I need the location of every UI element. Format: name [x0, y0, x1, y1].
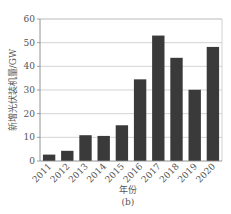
- y-tick-label: 50: [24, 38, 36, 48]
- bar-2018: [170, 58, 182, 161]
- bars: [43, 36, 219, 161]
- y-axis-title: 新增光伏装机量/GW: [7, 48, 18, 131]
- y-tick-label: 60: [24, 14, 36, 24]
- x-tick-label: 2013: [67, 161, 90, 184]
- y-tick-label: 40: [24, 61, 36, 71]
- x-tick-label: 2012: [48, 161, 71, 184]
- bar-2017: [152, 36, 164, 161]
- bar-2014: [98, 136, 110, 161]
- bar-2020: [207, 47, 219, 161]
- bar-2012: [61, 151, 73, 161]
- y-tick-label: 0: [29, 156, 35, 166]
- x-tick-label: 2016: [121, 161, 144, 184]
- x-tick-label: 2019: [176, 161, 199, 184]
- x-tick-label: 2020: [194, 161, 217, 184]
- x-tick-label: 2015: [103, 161, 126, 184]
- y-axis-ticks: 0102030405060: [24, 14, 40, 166]
- x-tick-label: 2018: [158, 161, 181, 184]
- bar-2016: [134, 79, 146, 161]
- bar-2015: [116, 125, 128, 161]
- chart-subtitle: (b): [122, 197, 135, 207]
- bar-chart: 0102030405060 20112012201320142015201620…: [0, 0, 231, 214]
- bar-2013: [79, 135, 91, 161]
- x-tick-label: 2014: [85, 161, 108, 184]
- y-tick-label: 10: [24, 132, 36, 142]
- bar-2019: [189, 90, 201, 161]
- y-tick-label: 30: [24, 85, 36, 95]
- x-axis-ticks: 2011201220132014201520162017201820192020: [30, 161, 217, 184]
- x-axis-title: 年份: [119, 184, 137, 195]
- y-tick-label: 20: [24, 109, 36, 119]
- bar-2011: [43, 155, 55, 161]
- x-tick-label: 2017: [139, 161, 162, 184]
